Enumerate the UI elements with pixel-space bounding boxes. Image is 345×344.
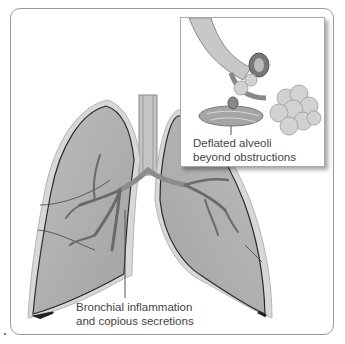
bronchial-label: Bronchial inflammation and copious secre… [76,300,194,328]
bronchial-label-line1: Bronchial inflammation [76,300,194,314]
alveoli-inset: Deflated alveoli beyond obstructions [180,17,325,167]
alveoli-label-line2: beyond obstructions [193,150,296,164]
bronchial-label-line2: and copious secretions [76,314,194,328]
trachea [139,95,157,175]
alveoli-label-line1: Deflated alveoli [193,136,296,150]
alveoli-label: Deflated alveoli beyond obstructions [193,136,296,164]
corner-mark [4,333,6,335]
left-lung [28,100,140,318]
